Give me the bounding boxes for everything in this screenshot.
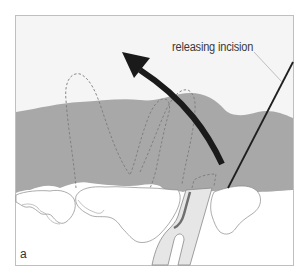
illustration: releasing incision a [0, 0, 308, 278]
releasing-incision-label: releasing incision [172, 40, 253, 54]
panel-label: a [20, 247, 27, 261]
